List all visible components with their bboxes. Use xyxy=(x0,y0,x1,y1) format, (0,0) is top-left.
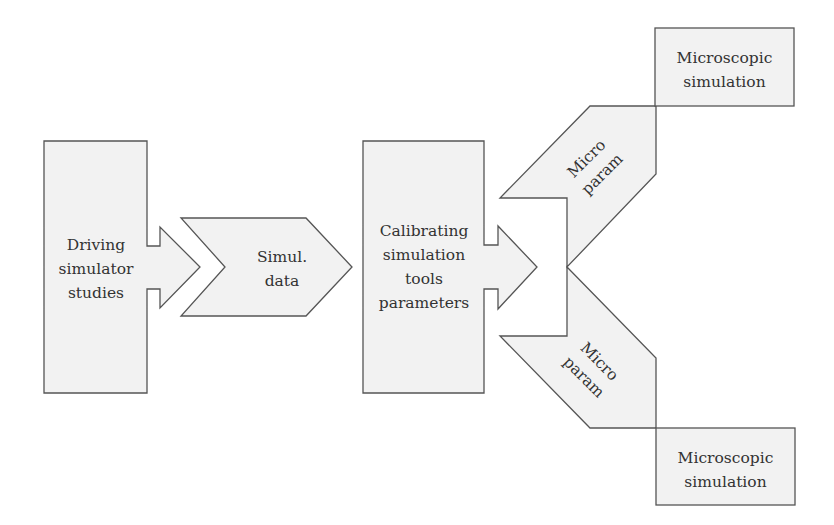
flow-diagram: Driving simulator studies Simul. data Ca… xyxy=(0,0,834,525)
node-micro-param-lower: Micro param xyxy=(500,267,656,428)
box-arrow-shape xyxy=(363,141,537,393)
node-label-line: Simul. xyxy=(257,248,307,266)
node-label-line: data xyxy=(265,272,300,290)
node-label-line: studies xyxy=(68,284,124,302)
node-label-line: Calibrating xyxy=(380,222,469,240)
node-label-line: Microscopic xyxy=(677,49,773,67)
node-label-line: tools xyxy=(405,270,443,288)
node-label-line: simulation xyxy=(683,73,765,91)
node-label-line: simulation xyxy=(684,473,766,491)
chevron-shape xyxy=(181,218,352,316)
node-calibrating-parameters: Calibrating simulation tools parameters xyxy=(363,141,537,393)
node-label-line: Microscopic xyxy=(678,449,774,467)
diagonal-arrow-shape xyxy=(500,267,656,428)
node-label-line: simulation xyxy=(383,246,465,264)
node-microscopic-simulation-upper: Microscopic simulation xyxy=(655,28,794,106)
node-label-line: parameters xyxy=(379,294,469,312)
node-label-line: Driving xyxy=(67,236,125,254)
node-simul-data: Simul. data xyxy=(181,218,352,316)
node-microscopic-simulation-lower: Microscopic simulation xyxy=(656,428,795,505)
box-shape xyxy=(655,28,794,106)
node-driving-simulator-studies: Driving simulator studies xyxy=(44,141,200,393)
node-micro-param-upper: Micro param xyxy=(500,106,656,267)
node-label-line: simulator xyxy=(59,260,134,278)
